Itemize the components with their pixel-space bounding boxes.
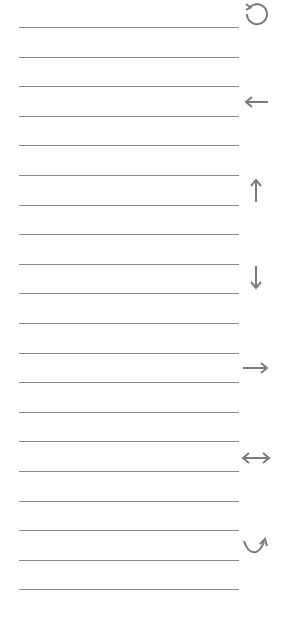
arrow-left-right-icon-glyph	[242, 444, 270, 472]
arrow-right-icon[interactable]	[240, 354, 272, 382]
rotate-ccw-icon-glyph	[242, 0, 270, 28]
rotate-ccw-icon[interactable]	[240, 0, 272, 28]
ruled-line	[19, 86, 239, 87]
ruled-line	[19, 441, 239, 442]
arrow-up-icon-glyph	[242, 176, 270, 204]
curved-arrow-up-right-icon[interactable]	[240, 532, 272, 560]
ruled-line	[19, 382, 239, 383]
ruled-line	[19, 589, 239, 590]
arrow-left-icon[interactable]	[240, 88, 272, 116]
arrow-right-icon-glyph	[242, 354, 270, 382]
ruled-line	[19, 560, 239, 561]
ruled-line	[19, 175, 239, 176]
ruled-line	[19, 234, 239, 235]
ruled-line	[19, 323, 239, 324]
ruled-line	[19, 116, 239, 117]
arrow-left-icon-glyph	[242, 88, 270, 116]
ruled-line	[19, 471, 239, 472]
arrow-down-icon-glyph	[242, 264, 270, 292]
ruled-line	[19, 293, 239, 294]
arrow-up-icon[interactable]	[240, 176, 272, 204]
ruled-line	[19, 264, 239, 265]
ruled-line	[19, 145, 239, 146]
curved-arrow-up-right-icon-glyph	[242, 532, 270, 560]
ruled-line	[19, 412, 239, 413]
arrow-left-right-icon[interactable]	[240, 444, 272, 472]
ruled-line	[19, 27, 239, 28]
arrow-down-icon[interactable]	[240, 264, 272, 292]
ruled-line	[19, 353, 239, 354]
ruled-line	[19, 501, 239, 502]
ruled-line	[19, 530, 239, 531]
ruled-line	[19, 57, 239, 58]
ruled-line	[19, 205, 239, 206]
